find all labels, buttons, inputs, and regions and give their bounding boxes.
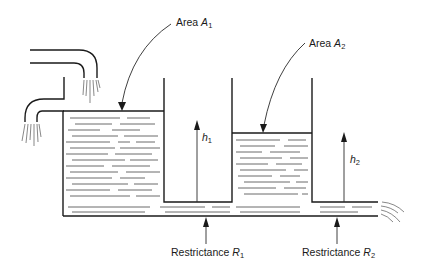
arrow-up-icon: [194, 120, 200, 130]
pipe-water: [68, 207, 372, 212]
outlet: [381, 202, 404, 222]
r2-annotation: Restrictance R2: [302, 217, 375, 260]
svg-text:Restrictance R2: Restrictance R2: [302, 246, 375, 260]
arrowhead-icon: [118, 102, 126, 111]
tank-1-water: [66, 118, 160, 196]
area-a1-annotation: Area A1: [118, 16, 212, 111]
svg-text:Area A1: Area A1: [176, 16, 212, 30]
svg-text:Area A2: Area A2: [309, 37, 345, 51]
arrow-up-icon: [341, 132, 347, 142]
arrow-up-icon: [203, 217, 209, 227]
svg-text:h1: h1: [202, 131, 212, 145]
tank-2-water: [236, 140, 308, 194]
arrowhead-icon: [260, 124, 267, 133]
svg-text:h2: h2: [350, 153, 360, 167]
inlet-spray-upper-icon: [83, 80, 100, 103]
r1-annotation: Restrictance R1: [171, 217, 244, 260]
h2-dimension: h2: [341, 132, 360, 202]
h1-dimension: h1: [194, 120, 212, 202]
arrow-up-icon: [334, 217, 340, 227]
inlet-pipe-upper: [30, 50, 100, 103]
two-tank-diagram: Area A1 Area A2 h1 h2 Restrictance R1: [0, 0, 421, 274]
area-a2-annotation: Area A2: [260, 37, 345, 133]
svg-text:Restrictance R1: Restrictance R1: [171, 246, 244, 260]
inlet-pipe-lower: [22, 77, 64, 146]
inlet-spray-lower-icon: [22, 124, 41, 146]
tank-1: [63, 78, 232, 216]
